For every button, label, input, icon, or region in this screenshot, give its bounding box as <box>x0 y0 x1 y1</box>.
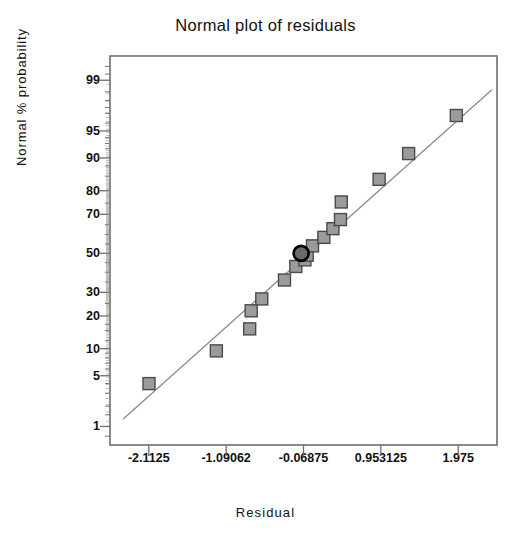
axis-ticks <box>100 66 458 456</box>
data-point <box>403 148 415 160</box>
data-point <box>245 305 257 317</box>
data-point <box>450 110 462 122</box>
data-point <box>143 378 155 390</box>
data-point <box>334 214 346 226</box>
plot-canvas <box>0 0 531 555</box>
data-point <box>244 323 256 335</box>
normal-probability-plot: Normal plot of residuals Normal % probab… <box>0 0 531 555</box>
data-point <box>210 345 222 357</box>
data-point <box>278 274 290 286</box>
data-point <box>373 173 385 185</box>
data-points <box>143 110 462 390</box>
highlighted-data-point <box>294 246 309 261</box>
data-point <box>335 196 347 208</box>
data-point <box>256 293 268 305</box>
